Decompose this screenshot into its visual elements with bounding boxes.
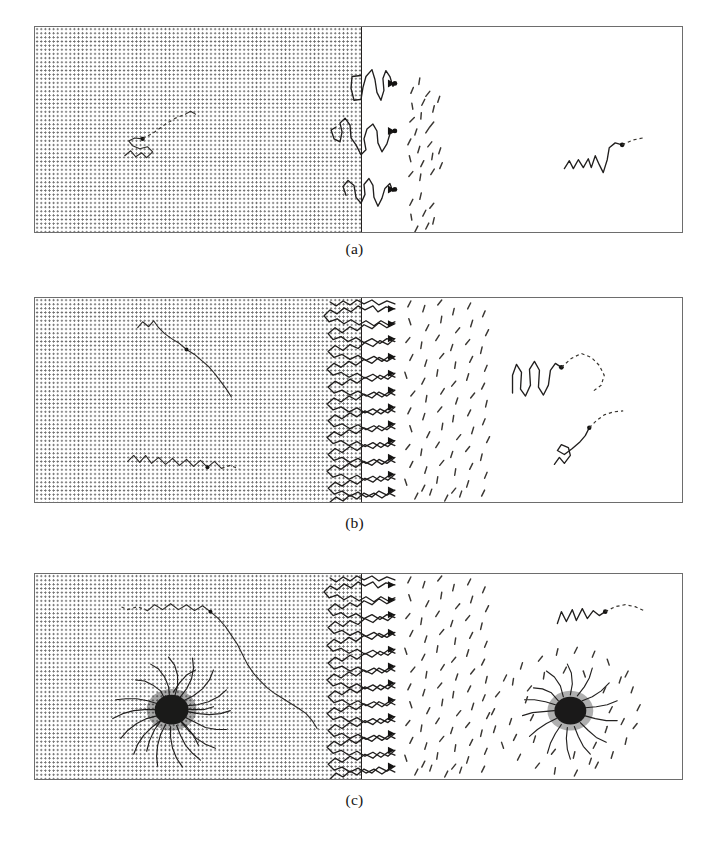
dense-phase-b [35,298,361,502]
solvent-phase-c [361,574,682,779]
panel-label-c: (c) [0,791,709,809]
panel-b [34,297,683,503]
dense-phase-a [35,27,361,232]
dense-phase-c [35,574,361,779]
figure-root: (a) [0,0,709,849]
solvent-phase-b [361,298,682,502]
interface-line-b [361,298,362,502]
panel-a [34,26,683,233]
panel-label-b: (b) [0,514,709,532]
solvent-phase-a [361,27,682,232]
interface-line-a [361,27,362,232]
panel-label-a: (a) [0,240,709,258]
panel-c [34,573,683,780]
interface-line-c [361,574,362,779]
